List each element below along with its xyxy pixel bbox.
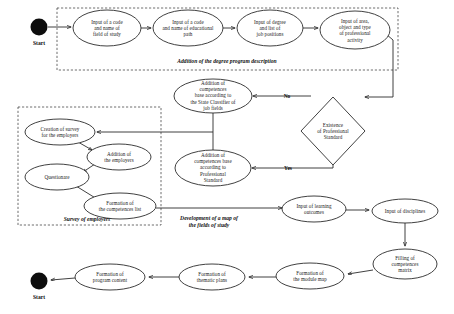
node-input-area-activity[interactable] <box>320 11 390 49</box>
group-label-degree-description: Addition of the degree program descripti… <box>127 58 327 65</box>
node-addition-employers[interactable] <box>87 144 151 170</box>
edge-program-content-to-end <box>51 278 75 280</box>
start-label-top: Start <box>33 40 45 46</box>
flowchart-canvas <box>0 0 454 314</box>
node-input-learning-outcomes[interactable] <box>282 196 346 222</box>
node-add-comp-classifier[interactable] <box>174 79 252 113</box>
edge-label-no: No <box>284 93 291 99</box>
flowchart-diagram: Input of a code and name of field of stu… <box>0 0 454 314</box>
node-input-code-path[interactable] <box>153 10 223 46</box>
edge-matrix-to-module-map <box>348 270 373 274</box>
edge-decision-yes-to-standard <box>252 165 333 168</box>
node-questionare[interactable] <box>25 164 89 190</box>
node-shapes <box>25 10 438 290</box>
label-map-fields-of-study: Development of a map of the fields of st… <box>154 215 264 229</box>
node-formation-module-map[interactable] <box>276 263 344 289</box>
node-input-degree-jobs[interactable] <box>237 10 303 46</box>
node-formation-thematic-plans[interactable] <box>179 264 245 290</box>
edge-label-yes: Yes <box>284 165 292 171</box>
start-terminal-top <box>31 19 48 36</box>
group-label-survey-employers: Survey of employers <box>27 216 147 223</box>
node-formation-program-content[interactable] <box>75 264 145 290</box>
node-creation-survey[interactable] <box>25 119 95 145</box>
edge-survey-to-addition-employers <box>78 142 92 150</box>
node-existence-professional-standard[interactable] <box>301 97 365 165</box>
node-filling-comp-matrix[interactable] <box>373 249 437 279</box>
node-input-disciplines[interactable] <box>372 199 438 223</box>
node-add-comp-standard[interactable] <box>175 150 251 186</box>
start-terminal-bottom <box>31 273 48 290</box>
start-label-bottom: Start <box>33 294 45 300</box>
node-input-code-field[interactable] <box>73 10 141 46</box>
